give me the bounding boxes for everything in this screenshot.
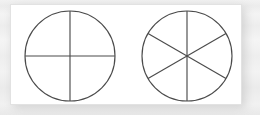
figure-root (0, 0, 260, 115)
circle-fourths (25, 11, 115, 101)
fraction-circles-diagram (0, 0, 260, 115)
circle-sixths (142, 11, 232, 101)
